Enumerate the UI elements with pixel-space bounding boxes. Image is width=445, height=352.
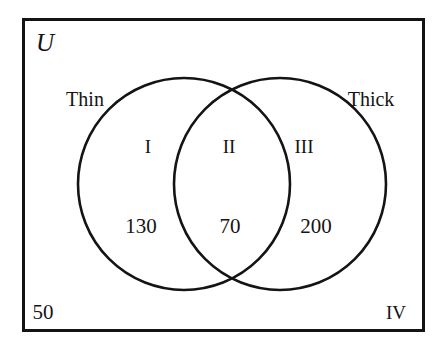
region-roman-i: I: [145, 137, 151, 156]
venn-diagram-canvas: [0, 0, 445, 352]
outside-region-roman-iv: IV: [386, 303, 406, 322]
region-count-i: 130: [125, 216, 157, 237]
set-label-thick: Thick: [348, 89, 395, 109]
set-label-thin: Thin: [66, 89, 104, 109]
region-roman-iii: III: [295, 137, 314, 156]
universe-frame-rect: [24, 20, 424, 331]
universe-label: U: [36, 30, 54, 55]
outside-region-count: 50: [33, 302, 54, 323]
venn-diagram-figure: U Thin Thick I II III 130 70 200 50 IV: [0, 0, 445, 352]
region-count-ii: 70: [220, 216, 241, 237]
region-roman-ii: II: [223, 137, 236, 156]
region-count-iii: 200: [300, 216, 332, 237]
